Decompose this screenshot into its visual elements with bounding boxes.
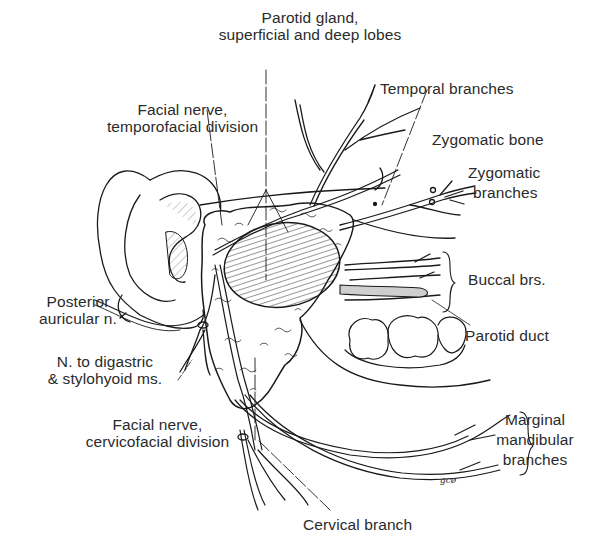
label-facial-nerve-temporofacial: Facial nerve, temporofacial division [100, 101, 265, 135]
label-nerve-to-digastric: N. to digastric & stylohyoid ms. [30, 353, 180, 387]
label-line: Posterior [28, 293, 128, 310]
label-zygomatic-bone: Zygomatic bone [432, 131, 544, 148]
label-buccal-branches: Buccal brs. [468, 271, 546, 288]
label-line: auricular n. [28, 310, 128, 327]
label-line: & stylohyoid ms. [30, 370, 180, 387]
label-line: Marginal [480, 410, 590, 430]
label-line: Facial nerve, [70, 416, 245, 433]
label-line: Parotid gland, [190, 9, 430, 26]
label-line: cervicofacial division [70, 433, 245, 450]
label-temporal-branches: Temporal branches [380, 80, 514, 97]
label-line: Zygomatic [468, 163, 540, 183]
label-posterior-auricular-nerve: Posterior auricular n. [28, 293, 128, 327]
artist-signature: gcø [440, 475, 456, 485]
label-line: branches [468, 183, 540, 203]
teeth [345, 316, 466, 368]
label-line: temporofacial division [100, 118, 265, 135]
label-parotid-duct: Parotid duct [465, 327, 549, 344]
label-line: branches [480, 450, 590, 470]
label-marginal-mandibular-branches: Marginal mandibular branches [480, 410, 590, 470]
anatomy-figure: Parotid gland, superficial and deep lobe… [0, 0, 610, 557]
label-line: mandibular [480, 430, 590, 450]
parotid-duct [340, 285, 428, 297]
label-cervical-branch: Cervical branch [303, 516, 412, 533]
label-facial-nerve-cervicofacial: Facial nerve, cervicofacial division [70, 416, 245, 450]
label-line: N. to digastric [30, 353, 180, 370]
label-zygomatic-branches: Zygomatic branches [468, 163, 540, 203]
label-line: superficial and deep lobes [190, 26, 430, 43]
label-line: Facial nerve, [100, 101, 265, 118]
label-parotid-gland: Parotid gland, superficial and deep lobe… [190, 9, 430, 43]
